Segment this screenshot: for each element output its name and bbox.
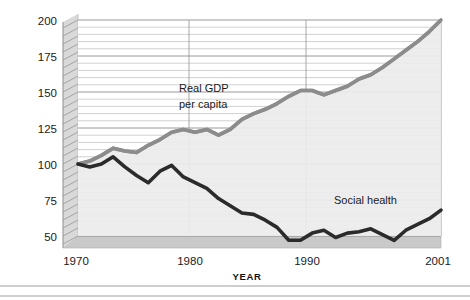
x-tick-1970: 1970	[63, 255, 89, 267]
y-tick-125: 125	[38, 123, 57, 135]
line-chart: 200 175 150 125 100 75 50 1970 1980 1990…	[0, 0, 470, 300]
gdp-label-line-1: Real GDP	[179, 82, 229, 94]
x-tick-2001: 2001	[425, 255, 451, 267]
y-tick-75: 75	[44, 195, 57, 207]
annotation-social-health: Social health	[334, 194, 397, 206]
chart-left-wall-3d	[63, 14, 78, 248]
gdp-label-line-2: per capita	[179, 98, 228, 110]
y-tick-175: 175	[38, 51, 57, 63]
y-tick-50: 50	[44, 231, 57, 243]
chart-figure: 200 175 150 125 100 75 50 1970 1980 1990…	[0, 0, 470, 300]
y-tick-200: 200	[38, 15, 57, 27]
x-tick-1990: 1990	[294, 255, 320, 267]
x-axis-title: YEAR	[233, 271, 262, 282]
y-tick-150: 150	[38, 87, 57, 99]
y-tick-100: 100	[38, 159, 57, 171]
x-tick-1980: 1980	[177, 255, 203, 267]
